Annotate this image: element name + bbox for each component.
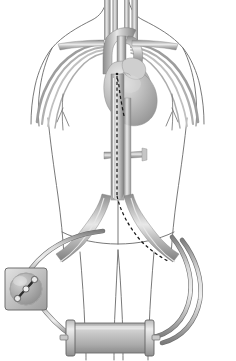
pump-impeller-hub (23, 286, 29, 292)
pump-impeller-lobe-lower (14, 295, 20, 301)
centrifugal-blood-pump[interactable] (5, 268, 47, 310)
pump-impeller-lobe-upper (31, 276, 37, 282)
medical-illustration-figure (0, 0, 236, 361)
oxygenator-top-highlight (68, 326, 152, 330)
pump-gloss-highlight (13, 276, 27, 286)
inferior-vena-cava (124, 98, 131, 198)
catheter-tip (116, 73, 119, 76)
anatomy-diagram-canvas (0, 0, 236, 361)
membrane-oxygenator[interactable] (60, 320, 160, 356)
oxygenator-outlet-port (152, 335, 160, 340)
oxygenator-inlet-port (60, 335, 68, 340)
